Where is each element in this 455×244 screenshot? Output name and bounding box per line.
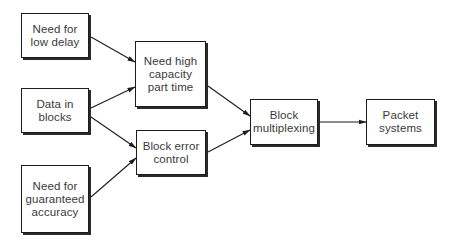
node-block-error-control: Block error control — [136, 130, 206, 175]
edge-guaranteed-accuracy-to-block-error-control — [91, 158, 136, 197]
node-block-multiplexing: Block multiplexing — [250, 99, 318, 145]
node-high-capacity: Need high capacity part time — [135, 41, 206, 107]
node-guaranteed-accuracy: Need for guaranteed accuracy — [21, 165, 89, 233]
node-label: Need for guaranteed accuracy — [25, 180, 84, 219]
node-label: Need for low delay — [31, 23, 80, 49]
flowchart-diagram: Need for low delay Data in blocks Need f… — [0, 0, 455, 244]
edge-block-error-control-to-block-multiplexing — [208, 130, 250, 152]
node-label: Packet systems — [379, 109, 422, 135]
edge-low-delay-to-high-capacity — [91, 37, 135, 62]
edge-data-blocks-to-block-error-control — [91, 117, 136, 148]
node-label: Need high capacity part time — [144, 55, 197, 94]
node-data-blocks: Data in blocks — [21, 88, 89, 133]
node-label: Data in blocks — [36, 98, 73, 124]
edge-data-blocks-to-high-capacity — [91, 87, 135, 108]
node-label: Block error control — [143, 140, 200, 166]
node-label: Block multiplexing — [253, 109, 315, 135]
node-packet-systems: Packet systems — [366, 99, 435, 145]
edge-high-capacity-to-block-multiplexing — [208, 86, 250, 116]
node-low-delay: Need for low delay — [21, 13, 89, 58]
